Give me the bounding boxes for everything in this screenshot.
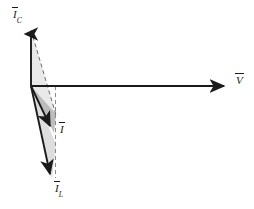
label-voltage-symbol: V (236, 74, 243, 86)
label-total-current: I (60, 123, 64, 138)
label-total-current-symbol: I (60, 123, 64, 135)
label-capacitive-current: IC (13, 8, 22, 23)
label-inductive-current: IL (55, 182, 63, 197)
label-inductive-current-subscript: L (59, 190, 63, 199)
label-capacitive-current-subscript: C (17, 16, 22, 25)
phasor-arrows-group (31, 34, 224, 174)
phasor-diagram-canvas (0, 0, 254, 209)
phasor-diagram-figure: IC I IL V (0, 0, 254, 209)
label-voltage: V (236, 74, 243, 89)
